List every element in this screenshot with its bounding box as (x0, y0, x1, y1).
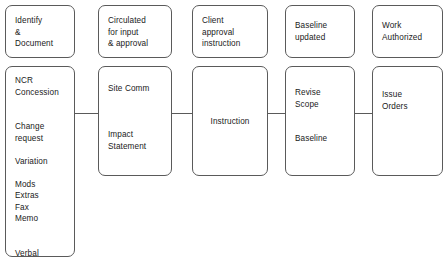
connector-revise-scope-to-issue-orders (354, 113, 373, 114)
node-work-authorized[interactable]: Work Authorized (372, 5, 443, 58)
node-label-issue-orders: Issue Orders (382, 89, 438, 112)
node-label-circulated-for-input-approval: Circulated for input & approval (108, 15, 167, 50)
node-label-baseline-updated: Baseline updated (295, 20, 350, 43)
node-baseline-updated[interactable]: Baseline updated (285, 5, 355, 58)
node-identify-document[interactable]: Identify & Document (5, 5, 75, 58)
node-ncr-concession-list[interactable]: NCR Concession Change request Variation … (5, 66, 75, 257)
node-label-identify-document: Identify & Document (15, 15, 70, 50)
node-label-client-approval-instruction: Client approval instruction (202, 15, 263, 50)
node-circulated-for-input-approval[interactable]: Circulated for input & approval (98, 5, 172, 58)
node-issue-orders[interactable]: Issue Orders (372, 66, 443, 176)
node-label-ncr-concession-list: NCR Concession Change request Variation … (15, 75, 70, 259)
node-revise-scope-baseline[interactable]: Revise Scope Baseline (285, 66, 355, 176)
connector-ncr-to-site-comm (74, 113, 99, 114)
connector-site-comm-to-instruction (171, 113, 193, 114)
flowchart-canvas: Identify & DocumentCirculated for input … (0, 0, 448, 267)
node-instruction[interactable]: Instruction (192, 66, 268, 176)
connector-instruction-to-revise-scope (267, 113, 286, 114)
node-label-instruction: Instruction (193, 116, 267, 128)
node-client-approval-instruction[interactable]: Client approval instruction (192, 5, 268, 58)
node-label-revise-scope-baseline: Revise Scope Baseline (295, 87, 350, 145)
node-label-site-comm-impact-statement: Site Comm Impact Statement (108, 83, 167, 152)
node-label-work-authorized: Work Authorized (382, 20, 438, 43)
node-site-comm-impact-statement[interactable]: Site Comm Impact Statement (98, 66, 172, 176)
